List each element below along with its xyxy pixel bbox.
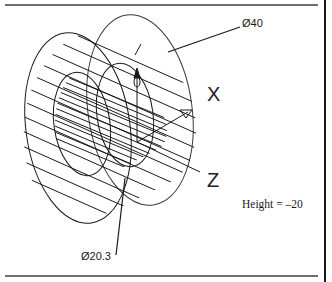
cylinder-wireframe [0, 0, 332, 282]
outer-diameter-leader [168, 27, 240, 52]
outer-diameter-label: Ø40 [242, 17, 263, 29]
outer-cylinder [13, 8, 205, 255]
inner-bore [47, 60, 170, 186]
ucs-axes [134, 44, 200, 172]
height-label: Height = –20 [242, 198, 303, 210]
z-axis-label: Z [207, 169, 219, 192]
inner-diameter-label: Ø20.3 [81, 250, 111, 262]
x-axis-label: X [207, 83, 220, 106]
